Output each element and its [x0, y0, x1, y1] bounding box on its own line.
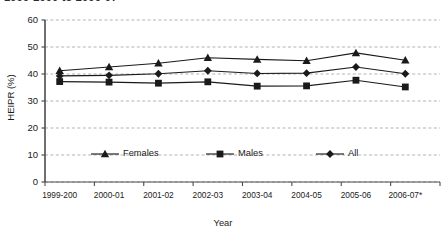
data-point-marker [352, 63, 360, 71]
data-point-marker [105, 71, 113, 79]
data-point-marker [402, 84, 409, 91]
y-tick-label: 50 [12, 42, 38, 52]
x-tick-label: 2006-07* [373, 190, 437, 200]
data-point-marker [303, 82, 310, 89]
x-axis-title: Year [0, 218, 446, 228]
y-tick-label: 60 [12, 15, 38, 25]
y-tick-label: 30 [12, 96, 38, 106]
y-tick-label: 0 [12, 177, 38, 187]
data-point-marker [155, 80, 162, 87]
data-point-marker [253, 70, 261, 78]
y-axis-title: HEIPR (%) [5, 62, 16, 134]
y-tick-label: 20 [12, 123, 38, 133]
data-series-group [55, 49, 409, 91]
data-point-marker [204, 78, 211, 85]
data-point-marker [155, 70, 163, 78]
y-tick-label: 10 [12, 150, 38, 160]
y-tick-label: 40 [12, 69, 38, 79]
legend-label-all: All [348, 148, 358, 158]
data-point-marker [401, 70, 409, 78]
x-tick-marks-group [45, 182, 440, 186]
legend-label-females: Females [123, 148, 159, 158]
data-point-marker [303, 69, 311, 77]
legend-label-males: Males [238, 148, 263, 158]
data-point-marker [352, 49, 360, 56]
data-point-marker [217, 151, 224, 158]
data-point-marker [254, 83, 261, 90]
data-point-marker [326, 150, 334, 158]
data-point-marker [353, 77, 360, 84]
chart-figure: 1999-2000 to 2006-07 0102030405060 1999-… [0, 0, 446, 234]
data-point-marker [106, 79, 113, 86]
data-point-marker [204, 67, 212, 75]
